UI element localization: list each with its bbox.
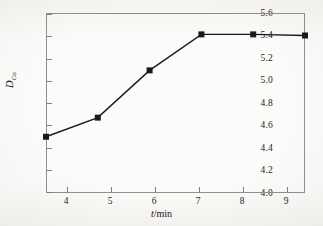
data-point-marker <box>198 31 204 37</box>
data-series-layer <box>0 0 323 226</box>
data-point-marker <box>302 33 308 39</box>
data-point-marker <box>250 31 256 37</box>
data-point-marker <box>147 67 153 73</box>
data-point-marker <box>95 115 101 121</box>
data-point-marker <box>43 134 49 140</box>
chart-figure: DCo 5.6 5.4 5.2 5.0 4.8 4.6 4.4 4.2 4.0 … <box>0 0 323 226</box>
series-line <box>46 34 305 136</box>
